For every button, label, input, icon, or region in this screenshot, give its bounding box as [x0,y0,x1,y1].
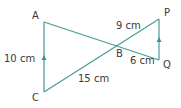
measure-bp: 9 cm [116,20,141,31]
parallel-arrow-icon-pq [157,37,162,42]
label-c: C [32,92,39,103]
measure-bq: 6 cm [130,55,155,66]
measure-ac: 10 cm [4,53,35,64]
label-b: B [116,48,123,59]
parallel-arrow-icon-ac [42,55,47,60]
label-q: Q [163,59,171,70]
triangle-diagram: A B C P Q 10 cm 9 cm 6 cm 15 cm [0,0,181,108]
label-a: A [32,10,39,21]
label-p: P [164,7,170,18]
measure-bc: 15 cm [78,73,109,84]
